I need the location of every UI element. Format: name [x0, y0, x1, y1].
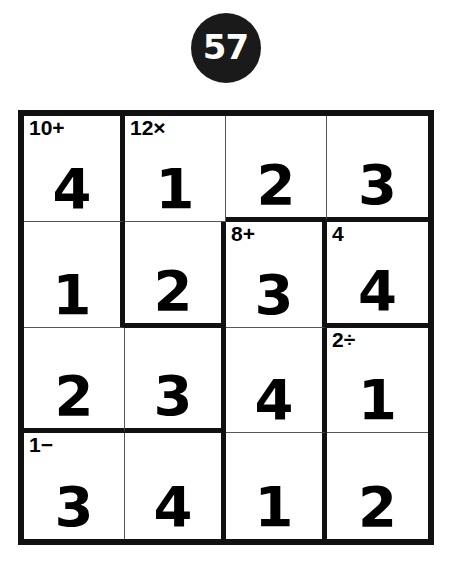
puzzle-number-badge: 57	[191, 13, 261, 83]
grid-cell-r2c0[interactable]: 2	[24, 328, 125, 434]
grid-cell-r3c3[interactable]: 2	[327, 433, 428, 539]
puzzle-number-area: 57	[0, 0, 451, 96]
cell-value: 2	[125, 222, 221, 323]
cell-value: 1	[327, 328, 428, 433]
kenken-grid: 10+412×123128+3442342÷11−3412	[18, 110, 434, 545]
cell-value: 4	[226, 328, 322, 433]
grid-cell-r0c2[interactable]: 2	[226, 116, 327, 222]
cell-value: 2	[226, 116, 326, 217]
grid-cell-r1c2[interactable]: 8+3	[226, 222, 327, 328]
cell-value: 3	[125, 328, 221, 429]
cell-value: 1	[24, 222, 120, 327]
cell-value: 3	[24, 433, 124, 539]
grid-cell-r3c0[interactable]: 1−3	[24, 433, 125, 539]
grid-cell-r3c1[interactable]: 4	[125, 433, 226, 539]
grid-cell-r0c3[interactable]: 3	[327, 116, 428, 222]
cell-value: 3	[226, 222, 322, 327]
grid-cell-r1c0[interactable]: 1	[24, 222, 125, 328]
cell-value: 1	[226, 433, 322, 539]
cell-value: 2	[24, 328, 124, 429]
cell-value: 1	[125, 116, 225, 221]
grid-cell-r2c1[interactable]: 3	[125, 328, 226, 434]
cell-value: 4	[327, 222, 428, 323]
cell-value: 4	[125, 433, 221, 539]
grid-cell-r0c0[interactable]: 10+4	[24, 116, 125, 222]
kenken-grid-wrapper: 10+412×123128+3442342÷11−3412	[18, 110, 434, 545]
grid-cell-r0c1[interactable]: 12×1	[125, 116, 226, 222]
grid-cell-r3c2[interactable]: 1	[226, 433, 327, 539]
cell-value: 3	[327, 116, 428, 217]
cell-value: 2	[327, 433, 428, 539]
grid-cell-r2c3[interactable]: 2÷1	[327, 328, 428, 434]
grid-cell-r1c1[interactable]: 2	[125, 222, 226, 328]
cell-value: 4	[24, 116, 120, 221]
grid-cell-r2c2[interactable]: 4	[226, 328, 327, 434]
grid-cell-r1c3[interactable]: 44	[327, 222, 428, 328]
